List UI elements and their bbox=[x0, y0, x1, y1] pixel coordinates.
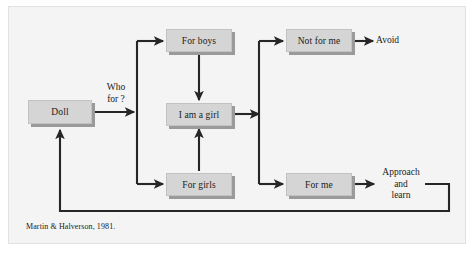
node-i-am-a-girl-label: I am a girl bbox=[179, 110, 219, 120]
node-not-for-me[interactable]: Not for me bbox=[286, 29, 352, 52]
label-approach-and-learn: Approach and learn bbox=[376, 167, 426, 202]
node-for-me[interactable]: For me bbox=[286, 173, 352, 196]
figure-caption: Martin & Halverson, 1981. bbox=[26, 222, 115, 231]
node-doll[interactable]: Doll bbox=[28, 100, 92, 124]
edge-label-who-for: Who for ? bbox=[98, 82, 134, 105]
node-doll-label: Doll bbox=[51, 107, 68, 117]
node-for-boys[interactable]: For boys bbox=[166, 29, 232, 52]
figure-container: Doll For boys I am a girl For girls Not … bbox=[0, 0, 476, 257]
node-for-girls-label: For girls bbox=[182, 180, 215, 190]
node-for-boys-label: For boys bbox=[182, 36, 216, 46]
node-i-am-a-girl[interactable]: I am a girl bbox=[166, 103, 232, 126]
label-avoid: Avoid bbox=[376, 35, 416, 47]
node-for-me-label: For me bbox=[305, 180, 333, 190]
node-for-girls[interactable]: For girls bbox=[166, 173, 232, 196]
node-not-for-me-label: Not for me bbox=[298, 36, 341, 46]
